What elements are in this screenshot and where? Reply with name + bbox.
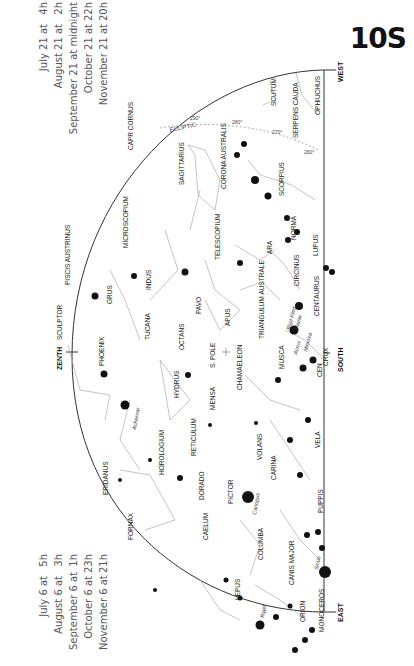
direction-east: EAST — [337, 603, 344, 622]
sky-boundary-arc — [72, 70, 324, 612]
label-vela: VELA — [314, 431, 321, 448]
label-carina: CARINA — [270, 455, 277, 480]
label-piscis-austrinus: PISCIS AUSTRINUS — [64, 224, 71, 285]
achernar-star — [121, 401, 130, 410]
mimosa-star — [310, 357, 317, 364]
label-scorpius: SCORPIUS — [278, 161, 285, 196]
label-musca: MUSCA — [278, 345, 285, 369]
label-crux: CRUX — [322, 347, 329, 366]
svg-text:260°: 260° — [304, 149, 314, 155]
rigel-star — [256, 621, 265, 630]
label-lepus: LEPUS — [234, 578, 241, 600]
label-sagittarius: SAGITTARIUS — [178, 141, 185, 185]
direction-west: WEST — [337, 61, 344, 82]
label-caelum: CAELUM — [202, 513, 209, 540]
label-indus: INDUS — [145, 269, 152, 290]
label-columba: COLUMBA — [257, 527, 264, 560]
label-monoceros: MONOCEROS — [318, 588, 325, 632]
label-circinus: CIRCINUS — [293, 254, 300, 286]
label-norma: NORMA — [290, 215, 297, 240]
label-grus: GRUS — [106, 285, 113, 304]
acrux-star — [300, 365, 307, 372]
label-scutum: SCUTUM — [270, 78, 277, 106]
label-chamaeleon: CHAMAELEON — [236, 344, 243, 390]
svg-text:280°: 280° — [232, 119, 242, 125]
label-telescopium: TELESCOPIUM — [214, 213, 221, 260]
label-ara: ARA — [266, 240, 273, 254]
label-microscopium: MICROSCOPIUM — [122, 196, 129, 248]
label-eridanus: ERIDANUS — [102, 461, 109, 495]
direction-south: SOUTH — [337, 348, 344, 373]
label-horologium: HOROLOGIUM — [158, 430, 165, 475]
label-hydrus: HYDRUS — [173, 370, 180, 398]
label-dorado: DORADO — [198, 471, 205, 500]
label-pavo: PAVO — [195, 297, 202, 314]
sirius-star — [319, 566, 331, 578]
svg-text:Sirius: Sirius — [313, 555, 321, 570]
label-mensa: MENSA — [209, 386, 216, 410]
label-lupus: LUPUS — [312, 234, 319, 256]
label-centaurus: CENTAURUS — [313, 275, 320, 316]
label-tucana: TUCANA — [144, 313, 151, 340]
constellation-lines — [68, 73, 325, 620]
svg-text:Rigel: Rigel — [259, 604, 267, 618]
svg-text:Mimosa: Mimosa — [302, 332, 313, 352]
label-phoenix: PHOENIX — [98, 336, 105, 366]
label-sculptor: SCULPTOR — [56, 304, 63, 340]
label-puppis: PUPPIS — [317, 488, 324, 513]
star-chart: ECLIPTIC 290° 280° 270° 260° SCUTUM OPHI… — [0, 0, 414, 666]
label-canis-major: CANIS MAJOR — [288, 540, 295, 585]
label-orion: ORION — [299, 600, 306, 622]
label-capricornus: CAPR CORNUS — [127, 101, 134, 150]
label-fornax: FORNAX — [127, 512, 134, 540]
direction-zenith: ZENTH — [56, 347, 63, 370]
ecliptic-label: ECLIPTIC — [169, 121, 197, 133]
svg-text:290°: 290° — [190, 115, 200, 121]
label-ophiuchus: OPHIUCHUS — [314, 75, 321, 115]
label-pictor: PICTOR — [227, 479, 234, 504]
label-octans: OCTANS — [178, 323, 185, 350]
svg-text:Achernar: Achernar — [131, 406, 141, 431]
label-triangulum-australe: TRIANGULUM AUSTRALE — [258, 260, 265, 339]
label-s-pole: S. POLE — [209, 342, 216, 368]
label-serpens: SERPENS CAUDA — [292, 82, 299, 138]
label-corona-australis: CORONA AUSTRALIS — [220, 123, 227, 189]
svg-text:270°: 270° — [272, 129, 282, 135]
label-cen: CEN — [316, 363, 323, 377]
label-reticulum: RETICULUM — [190, 418, 197, 456]
label-volans: VOLANS — [256, 433, 263, 460]
canopus-star — [242, 491, 254, 503]
svg-text:Acrux: Acrux — [292, 340, 302, 356]
label-apus: APUS — [224, 308, 231, 326]
